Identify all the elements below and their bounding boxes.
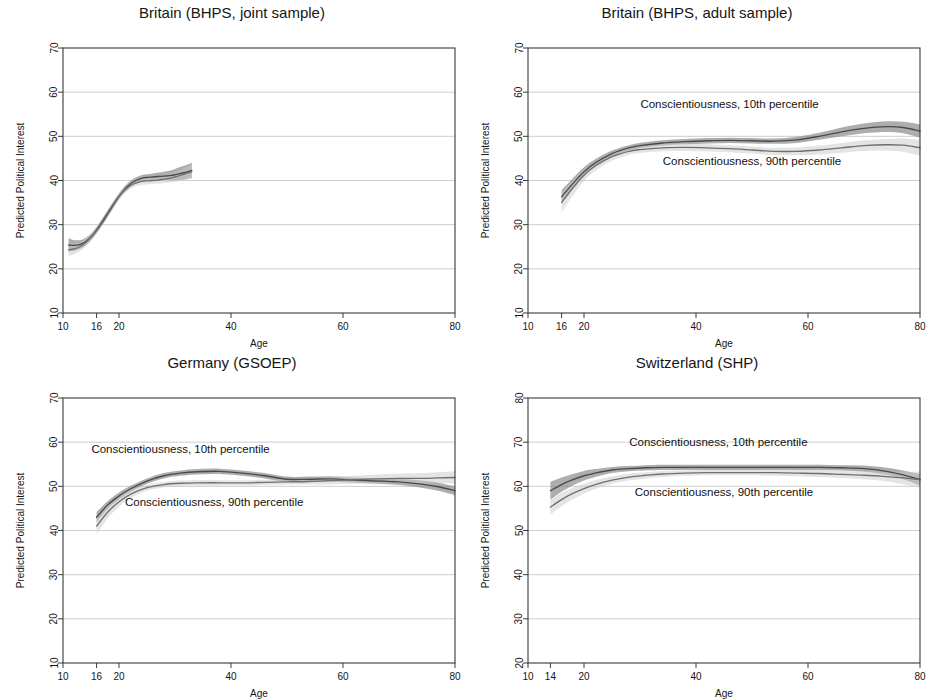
y-tick-label: 50 [514, 130, 525, 142]
y-tick-label: 20 [49, 613, 60, 625]
plot-area: 20304050607080101420406080AgePredicted P… [465, 350, 929, 699]
y-tick-label: 60 [514, 86, 525, 98]
x-tick-label: 16 [91, 321, 103, 332]
plot-area: 10203040506070101620406080AgePredicted P… [465, 0, 929, 349]
x-tick-label: 20 [113, 321, 125, 332]
y-axis-label: Predicted Political Interest [15, 472, 26, 588]
y-tick-label: 20 [514, 263, 525, 275]
x-tick-label: 40 [690, 671, 702, 682]
series-annotation: Conscientiousness, 10th percentile [640, 98, 818, 110]
plot-area: 10203040506070101620406080AgePredicted P… [0, 0, 464, 349]
x-axis-label: Age [250, 688, 268, 699]
x-tick-label: 60 [337, 321, 349, 332]
y-tick-label: 20 [49, 263, 60, 275]
confidence-band [69, 165, 192, 256]
x-tick-label: 80 [449, 321, 461, 332]
x-tick-label: 80 [449, 671, 461, 682]
x-tick-label: 60 [802, 321, 814, 332]
x-axis-label: Age [250, 338, 268, 349]
y-tick-label: 70 [49, 392, 60, 404]
x-tick-label: 80 [914, 321, 926, 332]
x-tick-label: 16 [91, 671, 103, 682]
y-tick-label: 10 [514, 307, 525, 319]
y-tick-label: 50 [49, 480, 60, 492]
x-tick-label: 60 [337, 671, 349, 682]
x-axis-label: Age [715, 338, 733, 349]
x-tick-label: 10 [57, 671, 69, 682]
x-tick-label: 10 [522, 671, 534, 682]
series-annotation: Conscientiousness, 90th percentile [663, 155, 841, 167]
figure-four-panel-political-interest: Britain (BHPS, joint sample) 10203040506… [0, 0, 929, 699]
y-tick-label: 30 [514, 613, 525, 625]
y-tick-label: 60 [49, 86, 60, 98]
plot-svg: 10203040506070101620406080AgePredicted P… [0, 0, 464, 349]
y-tick-label: 40 [514, 569, 525, 581]
y-tick-label: 30 [49, 219, 60, 231]
x-tick-label: 20 [578, 671, 590, 682]
x-axis-label: Age [715, 688, 733, 699]
panel-britain-adult: Britain (BHPS, adult sample) 10203040506… [465, 0, 929, 349]
x-tick-label: 14 [545, 671, 557, 682]
x-tick-label: 40 [225, 321, 237, 332]
y-tick-label: 10 [49, 307, 60, 319]
x-tick-label: 16 [556, 321, 568, 332]
x-tick-label: 40 [690, 321, 702, 332]
y-axis-label: Predicted Political Interest [480, 472, 491, 588]
series-annotation: Conscientiousness, 10th percentile [91, 443, 269, 455]
x-tick-label: 40 [225, 671, 237, 682]
y-tick-label: 60 [49, 436, 60, 448]
plot-area: 10203040506070101620406080AgePredicted P… [0, 350, 464, 699]
series-annotation: Conscientiousness, 10th percentile [629, 436, 807, 448]
y-tick-label: 40 [49, 175, 60, 187]
plot-svg: 20304050607080101420406080AgePredicted P… [465, 350, 929, 699]
y-tick-label: 40 [49, 525, 60, 537]
x-tick-label: 20 [578, 321, 590, 332]
y-tick-label: 50 [49, 130, 60, 142]
y-tick-label: 60 [514, 480, 525, 492]
y-tick-label: 70 [514, 42, 525, 54]
x-tick-label: 10 [522, 321, 534, 332]
x-tick-label: 10 [57, 321, 69, 332]
y-tick-label: 70 [49, 42, 60, 54]
panel-switzerland: Switzerland (SHP) 2030405060708010142040… [465, 350, 929, 699]
series-annotation: Conscientiousness, 90th percentile [125, 496, 303, 508]
plot-svg: 10203040506070101620406080AgePredicted P… [0, 350, 464, 699]
series-annotation: Conscientiousness, 90th percentile [635, 486, 813, 498]
y-axis-label: Predicted Political Interest [480, 122, 491, 238]
plot-svg: 10203040506070101620406080AgePredicted P… [465, 0, 929, 349]
x-tick-label: 60 [802, 671, 814, 682]
y-tick-label: 30 [49, 569, 60, 581]
x-tick-label: 80 [914, 671, 926, 682]
y-tick-label: 50 [514, 525, 525, 537]
y-axis-label: Predicted Political Interest [15, 122, 26, 238]
x-tick-label: 20 [113, 671, 125, 682]
y-tick-label: 20 [514, 657, 525, 669]
panel-britain-joint: Britain (BHPS, joint sample) 10203040506… [0, 0, 464, 349]
y-tick-label: 30 [514, 219, 525, 231]
y-tick-label: 70 [514, 436, 525, 448]
y-tick-label: 10 [49, 657, 60, 669]
y-tick-label: 80 [514, 392, 525, 404]
panel-germany: Germany (GSOEP) 102030405060701016204060… [0, 350, 464, 699]
y-tick-label: 40 [514, 175, 525, 187]
